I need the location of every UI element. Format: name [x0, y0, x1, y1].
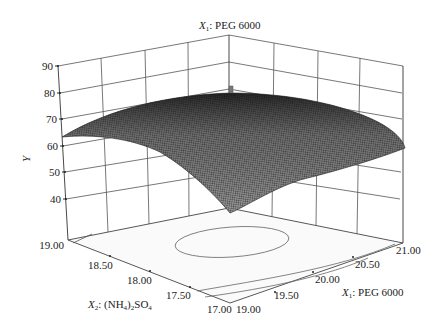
x1-tick-1900: 19.00: [236, 303, 261, 315]
chart-svg: 90 80 70 60 50 40 Y 19.00 18.50 18.00 17…: [0, 0, 442, 331]
z-tick-80: 80: [44, 87, 56, 99]
x1-tick-2000: 20.00: [315, 273, 340, 285]
z-tick-90: 90: [42, 60, 54, 72]
x2-tick-1900: 19.00: [39, 239, 64, 251]
x2-axis-label: X2: (NH4)2SO4: [87, 298, 152, 312]
response-surface-chart: 90 80 70 60 50 40 Y 19.00 18.50 18.00 17…: [0, 0, 442, 331]
x2-tick-1850: 18.50: [88, 259, 113, 271]
peak-marker: [229, 86, 233, 93]
z-tick-50: 50: [49, 166, 61, 178]
top-axis-label: X1: PEG 6000: [198, 19, 261, 33]
z-tick-70: 70: [46, 113, 58, 125]
x1-axis-label: X1: PEG 6000: [341, 286, 404, 300]
z-axis-label: Y: [20, 154, 32, 162]
x2-tick-1700: 17.00: [207, 303, 232, 315]
x2-tick-1800: 18.00: [127, 274, 152, 286]
z-tick-60: 60: [47, 140, 59, 152]
x1-tick-2050: 20.50: [355, 258, 380, 270]
z-tick-40: 40: [50, 193, 62, 205]
x2-tick-1750: 17.50: [166, 289, 191, 301]
x1-tick-1950: 19.50: [274, 289, 299, 301]
x1-tick-2100: 21.00: [396, 244, 421, 256]
